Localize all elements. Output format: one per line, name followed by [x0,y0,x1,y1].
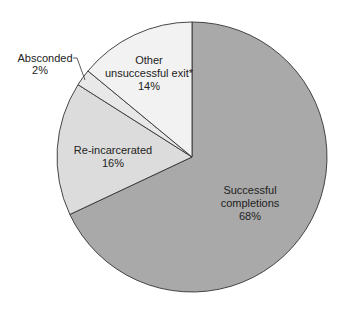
label-other-line2: unsuccessful exit* [105,67,194,79]
label-successful-value: 68% [239,210,261,222]
label-other-value: 14% [138,80,160,92]
label-successful-line2: completions [221,197,280,209]
label-successful-line1: Successful [223,184,276,196]
label-absconded: Absconded 2% [17,52,72,76]
label-re-incarcerated-value: 16% [102,157,124,169]
label-absconded-name: Absconded [17,52,72,64]
label-other-line1: Other [135,54,163,66]
label-re-incarcerated-name: Re-incarcerated [74,144,152,156]
label-absconded-value: 2% [32,64,48,76]
pie-chart: Absconded 2% Other unsuccessful exit* 14… [0,0,340,312]
